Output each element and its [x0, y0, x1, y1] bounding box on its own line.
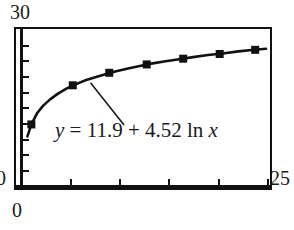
- equation-intercept: 11.9: [87, 118, 123, 142]
- data-point-marker: [179, 55, 187, 63]
- graphing-calculator-plot: 30 0 0 25 y = 11.9 + 4.52 ln x: [0, 0, 294, 230]
- data-point-marker: [27, 120, 35, 128]
- equation-equals: =: [70, 118, 82, 142]
- data-point-marker: [216, 50, 224, 58]
- equation-variable-y: y: [55, 118, 64, 142]
- equation-ln-operator: ln: [187, 118, 203, 142]
- equation-variable-x: x: [209, 118, 218, 142]
- curve-layer: [0, 0, 294, 230]
- equation-coefficient: 4.52: [145, 118, 182, 142]
- data-point-marker: [143, 60, 151, 68]
- regression-equation-annotation: y = 11.9 + 4.52 ln x: [55, 118, 218, 142]
- data-point-markers: [27, 46, 259, 129]
- equation-plus: +: [128, 118, 140, 142]
- data-point-marker: [69, 81, 77, 89]
- data-point-marker: [105, 69, 113, 77]
- data-point-marker: [251, 46, 259, 54]
